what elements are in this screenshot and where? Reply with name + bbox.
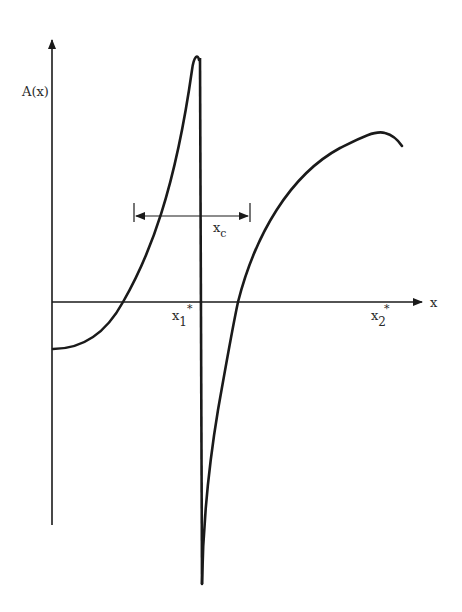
y-axis-label: A(x) — [21, 84, 49, 99]
discontinuity-line — [200, 58, 202, 584]
curve-right-branch — [202, 132, 402, 584]
point1-label: x1 — [172, 308, 187, 329]
x-axis-label: x — [430, 295, 438, 310]
curve-left-branch — [53, 57, 199, 349]
interval-label: xc — [213, 220, 227, 240]
point1-star: * — [187, 302, 193, 315]
function-plot: A(x) x xc x1 * x2 * — [0, 0, 462, 612]
point2-star: * — [384, 302, 390, 315]
